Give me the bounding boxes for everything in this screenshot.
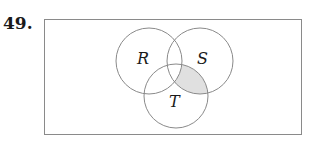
set-t-label: T <box>169 92 181 111</box>
venn-diagram: R S T <box>0 0 315 141</box>
set-s-label: S <box>197 49 208 68</box>
set-r-label: R <box>136 49 149 68</box>
